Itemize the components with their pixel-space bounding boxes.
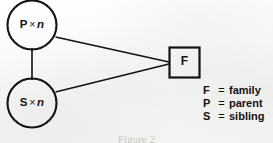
- legend-value-parent: parent: [229, 97, 263, 109]
- edge-sibling-family: [56, 64, 170, 92]
- family-node-label: F: [169, 54, 200, 68]
- legend-key-parent: P: [203, 97, 214, 109]
- parent-node-symbol: P: [20, 18, 28, 30]
- parent-node-label: P × n: [6, 18, 58, 30]
- legend-item-sibling: S = sibling: [203, 110, 264, 123]
- legend: F = family P = parent S = sibling: [203, 84, 264, 123]
- edge-parent-family: [56, 37, 170, 62]
- parent-node-operator: ×: [28, 18, 37, 30]
- legend-equals-parent: =: [214, 97, 229, 109]
- legend-item-parent: P = parent: [203, 97, 264, 110]
- parent-node-multiplicity: n: [37, 18, 44, 30]
- legend-value-family: family: [229, 84, 261, 96]
- legend-key-family: F: [203, 84, 214, 96]
- legend-item-family: F = family: [203, 84, 264, 97]
- legend-equals-family: =: [214, 84, 229, 96]
- sibling-node-label: S × n: [6, 96, 58, 108]
- legend-value-sibling: sibling: [229, 110, 264, 122]
- sibling-node-symbol: S: [20, 96, 28, 108]
- legend-equals-sibling: =: [214, 110, 229, 122]
- legend-key-sibling: S: [203, 110, 214, 122]
- sibling-node-multiplicity: n: [37, 96, 44, 108]
- sibling-node-operator: ×: [28, 96, 37, 108]
- figure-caption: Figure 2: [0, 133, 273, 143]
